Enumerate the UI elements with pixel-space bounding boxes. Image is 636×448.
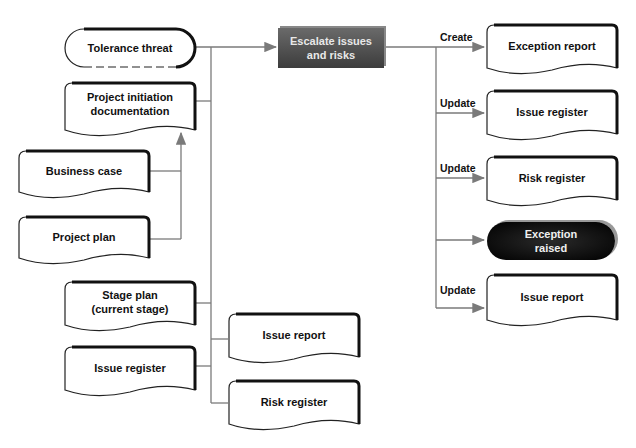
risk-register-output-label: Risk register <box>486 156 618 200</box>
business-case-doc: Business case <box>18 150 150 200</box>
project-initiation-documentation-doc: Project initiation documentation <box>64 82 196 138</box>
exception-report-label: Exception report <box>486 24 618 68</box>
issue-register-output-label: Issue register <box>486 90 618 134</box>
risk-register-input-label: Risk register <box>228 380 360 424</box>
project-plan-doc: Project plan <box>18 216 150 266</box>
issue-report-output-label: Issue report <box>486 274 618 320</box>
stage-plan-label-line1: Stage plan <box>102 288 158 302</box>
project-plan-label: Project plan <box>18 216 150 258</box>
issue-report-output-doc: Issue report <box>486 274 618 328</box>
edge-label-update-risk-register: Update <box>440 162 476 174</box>
stage-plan-label-line2: (current stage) <box>91 302 168 316</box>
issue-register-input-label: Issue register <box>64 346 196 390</box>
edge-label-update-issue-register: Update <box>440 97 476 109</box>
pid-label-line2: documentation <box>91 104 170 118</box>
issue-report-input-label: Issue report <box>228 313 360 357</box>
tolerance-threat-label: Tolerance threat <box>64 28 196 68</box>
issue-register-output-doc: Issue register <box>486 90 618 142</box>
process-label-line2: and risks <box>307 48 355 62</box>
issue-report-input-doc: Issue report <box>228 313 360 365</box>
risk-register-output-doc: Risk register <box>486 156 618 208</box>
pid-label-line1: Project initiation <box>87 90 173 104</box>
stage-plan-doc: Stage plan (current stage) <box>64 281 196 333</box>
business-case-label: Business case <box>18 150 150 192</box>
exception-raised-line1: Exception <box>525 227 578 241</box>
tolerance-threat-event: Tolerance threat <box>64 28 196 68</box>
exception-raised-line2: raised <box>535 241 567 255</box>
escalate-issues-process: Escalate issues and risks <box>278 28 384 68</box>
exception-report-doc: Exception report <box>486 24 618 76</box>
edge-label-create: Create <box>440 31 473 43</box>
exception-raised-event: Exception raised <box>487 222 615 260</box>
process-label-line1: Escalate issues <box>290 34 372 48</box>
edge-label-update-issue-report: Update <box>440 284 476 296</box>
risk-register-input-doc: Risk register <box>228 380 360 432</box>
issue-register-input-doc: Issue register <box>64 346 196 398</box>
